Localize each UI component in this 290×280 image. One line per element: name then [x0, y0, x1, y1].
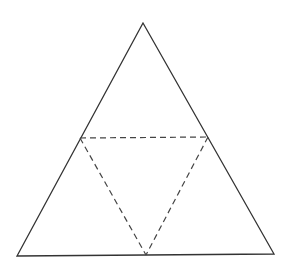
triangle-diagram	[0, 0, 290, 280]
background	[0, 0, 290, 280]
